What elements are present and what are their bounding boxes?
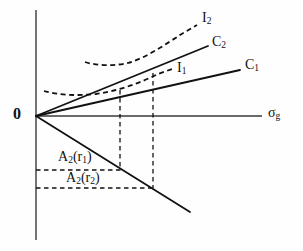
economics-diagram: 0 σg C1 C2 I1 I2 A2(r1) A2(r2): [0, 0, 303, 251]
line-c1: [36, 70, 240, 116]
line-c1-label: C1: [245, 58, 259, 74]
curve-i2-label: I2: [202, 11, 211, 27]
diagram-canvas: [0, 0, 303, 251]
a2-r2-label: A2(r2): [66, 171, 100, 187]
origin-label: 0: [13, 106, 21, 122]
sigma-g-axis-label: σg: [268, 106, 280, 122]
a2-r1-label: A2(r1): [58, 150, 92, 166]
curve-i1-label: I1: [177, 61, 186, 77]
line-c2: [36, 46, 208, 116]
line-c2-label: C2: [212, 35, 226, 51]
